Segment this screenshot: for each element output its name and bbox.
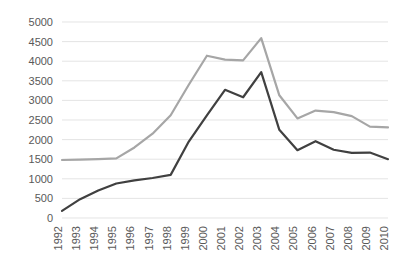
y-axis-tick-label: 1000 [29,173,53,185]
x-axis-tick-label: 2002 [233,226,245,250]
x-axis-tick-label: 2000 [197,226,209,250]
gridlines-group [62,22,388,218]
y-axis-tick-label: 4000 [29,55,53,67]
x-axis-tick-label: 1992 [52,226,64,250]
x-axis-tick-label: 2007 [324,226,336,250]
y-axis-tick-label: 3500 [29,75,53,87]
x-axis-tick-label: 2010 [378,226,390,250]
y-axis-tick-label: 4500 [29,36,53,48]
x-axis-tick-label: 1993 [70,226,82,250]
x-axis-tick-labels: 1992199319941995199619971998199920002001… [52,226,390,250]
series-group [62,38,388,211]
x-axis-tick-label: 1994 [88,226,100,250]
y-axis-tick-label: 1500 [29,153,53,165]
y-axis-tick-label: 2000 [29,134,53,146]
x-axis-tick-label: 2004 [269,226,281,250]
y-axis-tick-label: 500 [35,192,53,204]
x-axis-tick-label: 2005 [287,226,299,250]
line-chart: 5000450040003500300025002000150010005000… [0,0,398,266]
y-axis-tick-label: 3000 [29,94,53,106]
x-axis-tick-label: 1995 [106,226,118,250]
x-axis-tick-label: 2009 [360,226,372,250]
x-axis-tick-label: 1997 [143,226,155,250]
series-line-gray-series [62,38,388,160]
x-axis-tick-label: 1996 [124,226,136,250]
series-line-dark-series [62,72,388,211]
chart-canvas: 5000450040003500300025002000150010005000… [0,0,398,266]
x-axis-tick-label: 2008 [342,226,354,250]
x-axis-tick-label: 2001 [215,226,227,250]
y-axis-tick-label: 0 [47,212,53,224]
x-axis-tick-label: 1998 [161,226,173,250]
y-axis-tick-labels: 5000450040003500300025002000150010005000 [29,16,53,224]
x-axis-tick-label: 1999 [179,226,191,250]
y-axis-tick-label: 2500 [29,114,53,126]
y-axis-tick-label: 5000 [29,16,53,28]
x-axis-tick-label: 2006 [306,226,318,250]
x-axis-tick-label: 2003 [251,226,263,250]
